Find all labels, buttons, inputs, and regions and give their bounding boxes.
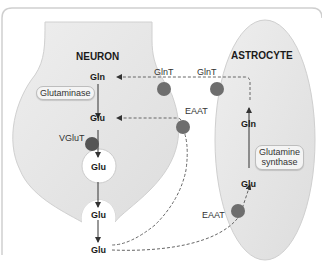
diagram-graphics <box>0 0 322 266</box>
glutamine-synthase-enzyme-label: Glutamine synthase <box>255 145 304 170</box>
eaat-neuron-label: EAAT <box>185 107 208 116</box>
neuron-gln-label: Gln <box>90 73 105 82</box>
neuron-title: NEURON <box>76 52 119 62</box>
glnt-neuron-transporter <box>157 82 171 96</box>
glnt-neuron-label: GlnT <box>154 68 174 77</box>
astrocyte-gln-label: Gln <box>241 120 256 129</box>
vglut-label: VGluT <box>59 134 85 143</box>
neuron-glu-cytosol-label: Glu <box>90 114 105 123</box>
eaat-astrocyte-label: EAAT <box>202 211 225 220</box>
vglut-transporter <box>85 137 99 151</box>
glutaminase-enzyme-label: Glutaminase <box>36 86 95 100</box>
glnt-astrocyte-label: GlnT <box>197 68 217 77</box>
vesicle-glu-label: Glu <box>91 163 106 172</box>
release-vesicle-glu-label: Glu <box>91 211 106 220</box>
eaat-neuron-transporter <box>176 120 190 134</box>
eaat-astrocyte-transporter <box>231 204 245 218</box>
glnt-astrocyte-transporter <box>210 82 224 96</box>
glutamate-glutamine-cycle-diagram: NEURON ASTROCYTE Gln Glu Glu Glu Glu Gln… <box>0 0 322 266</box>
astrocyte-title: ASTROCYTE <box>231 51 293 61</box>
synaptic-glu-label: Glu <box>91 246 106 255</box>
astrocyte-glu-label: Glu <box>241 180 256 189</box>
